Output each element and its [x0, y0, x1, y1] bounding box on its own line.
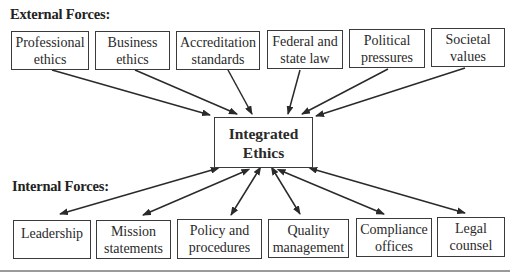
arrow-federal-state-law	[288, 70, 300, 114]
internal-box-mission-statements: Missionstatements	[96, 220, 171, 259]
external-box-professional-ethics: Professionalethics	[11, 31, 89, 70]
arrow-mission	[143, 172, 243, 215]
internal-box-leadership: Leadership	[13, 220, 91, 259]
external-box-accreditation-standards: Accreditationstandards	[176, 31, 260, 70]
arrow-accreditation	[228, 70, 252, 114]
internal-box-quality-management: Qualitymanagement	[268, 219, 349, 258]
internal-box-policy-procedures: Policy andprocedures	[177, 219, 262, 259]
external-box-business-ethics: Businessethics	[95, 31, 170, 70]
internal-box-legal-counsel: Legalcounsel	[437, 217, 505, 257]
arrow-compliance	[284, 172, 384, 214]
arrow-legal	[316, 170, 465, 213]
external-box-political-pressures: Politicalpressures	[349, 29, 425, 68]
external-box-societal-values: Societalvalues	[431, 28, 505, 67]
arrow-quality	[275, 173, 300, 214]
arrow-societal-values	[316, 68, 465, 116]
external-box-federal-state-law: Federal andstate law	[267, 30, 343, 69]
bottom-divider	[0, 270, 510, 272]
arrow-policy	[231, 173, 257, 215]
internal-box-compliance-offices: Complianceoffices	[356, 218, 432, 257]
internal-forces-heading: Internal Forces:	[12, 178, 109, 195]
integrated-ethics-box: IntegratedEthics	[214, 117, 313, 168]
